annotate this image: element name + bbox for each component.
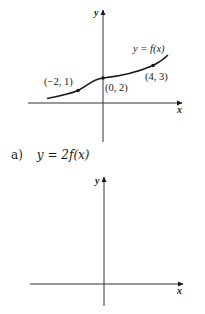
bottom-graph: x y [30,175,183,306]
label-point-neg2-1: (−2, 1) [44,76,73,88]
curve-label: y = f(x) [132,43,165,55]
part-a-equation: y = 2f(x) [37,148,90,162]
point-neg2-1 [76,89,80,93]
point-4-3 [151,64,155,68]
label-point-4-3: (4, 3) [145,71,168,83]
bottom-y-axis-label: y [94,175,100,186]
top-y-axis-label: y [93,7,99,18]
top-x-axis-label: x [176,104,182,115]
top-graph: x y (−2, 1) (0, 2) (4, 3) y = f(x) [28,7,182,142]
point-0-2 [101,76,105,80]
bottom-x-axis-label: x [176,285,182,296]
part-a-heading: a)y = 2f(x) [11,148,90,162]
label-point-0-2: (0, 2) [105,82,128,94]
part-a-marker: a) [11,148,23,162]
